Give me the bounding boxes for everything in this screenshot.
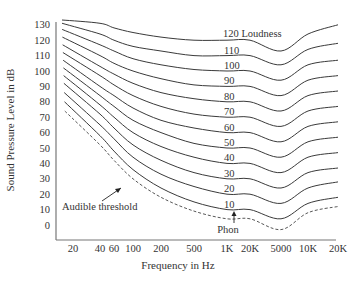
x-tick-label: 60 [109, 243, 120, 254]
x-tick-label: 40 [95, 243, 106, 254]
phon-curve-110 [62, 23, 338, 65]
y-tick-label: 110 [35, 50, 50, 61]
x-tick-label: 20K [329, 243, 348, 254]
phon-curve-100 [62, 29, 338, 80]
phon-label-110: 110 [224, 45, 239, 56]
phon-label: Phon [217, 224, 239, 235]
audible-threshold-label: Audible threshold [62, 201, 138, 212]
y-tick-label: 30 [40, 173, 51, 184]
y-tick-label: 10 [40, 204, 51, 215]
y-tick-label: 90 [40, 81, 51, 92]
y-tick-label: 20 [40, 189, 51, 200]
x-tick-label: 500 [186, 243, 202, 254]
y-tick-label: 40 [40, 158, 51, 169]
phon-label-30: 30 [224, 168, 235, 179]
loudness-120-label: 120 Loudness [223, 28, 282, 39]
x-tick-label: 100 [125, 243, 141, 254]
y-tick-label: 120 [34, 35, 50, 46]
y-tick-label: 70 [40, 112, 51, 123]
y-tick-label: 100 [34, 66, 50, 77]
phon-label-70: 70 [224, 106, 235, 117]
x-tick-label: 10K [299, 243, 318, 254]
phon-label-50: 50 [224, 137, 235, 148]
phon-label-100: 100 [224, 60, 240, 71]
phon-curve-50 [63, 68, 338, 157]
y-tick-label: 50 [40, 143, 51, 154]
y-tick-label: 0 [45, 220, 50, 231]
y-axis-ticks: 0102030405060708090100110120130 [34, 19, 50, 230]
phon-label-80: 80 [224, 91, 235, 102]
y-tick-label: 80 [40, 96, 51, 107]
loudness-curves [62, 20, 338, 230]
x-tick-label: 5000 [271, 243, 292, 254]
y-tick-label: 60 [40, 127, 51, 138]
x-tick-label: 20K [241, 243, 260, 254]
x-tick-label: 200 [153, 243, 169, 254]
x-axis-ticks: 2040601002005001K20K500010K20K [68, 243, 348, 254]
y-tick-label: 130 [34, 19, 50, 30]
x-tick-label: 20 [68, 243, 79, 254]
equal-loudness-chart: 0102030405060708090100110120130 20406010… [0, 0, 360, 283]
phon-label-60: 60 [224, 122, 235, 133]
curve-labels: 110100908070605040302010 [224, 45, 240, 210]
phon-label-40: 40 [224, 152, 235, 163]
x-tick-label: 1K [221, 243, 234, 254]
audible-threshold-arrowhead [115, 188, 121, 193]
x-axis-title: Frequency in Hz [141, 259, 214, 271]
y-axis-title: Sound Pressure Level in dB [4, 69, 16, 192]
phon-arrowhead [232, 211, 237, 216]
phon-label-90: 90 [224, 75, 235, 86]
phon-label-20: 20 [224, 183, 235, 194]
phon-label-10: 10 [224, 199, 235, 210]
